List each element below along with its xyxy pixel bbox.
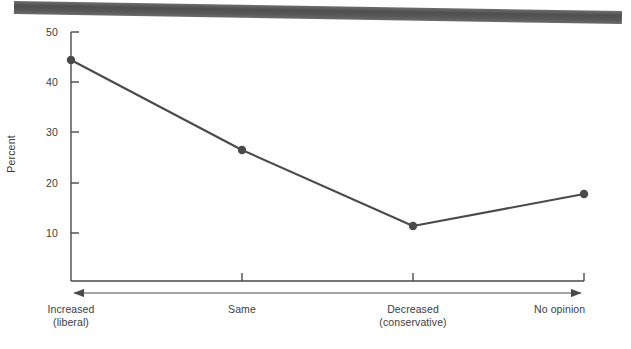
- x-category-label-decreased-line1: Decreased: [348, 303, 478, 316]
- data-point-decreased[interactable]: [409, 222, 417, 230]
- x-category-label-same-line1: Same: [192, 303, 292, 316]
- x-category-label-decreased: Decreased (conservative): [348, 303, 478, 328]
- data-point-same[interactable]: [238, 146, 246, 154]
- x-category-label-increased: Increased (liberal): [21, 303, 121, 328]
- x-category-label-no-opinion: No opinion: [534, 303, 631, 316]
- data-point-no-opinion[interactable]: [580, 190, 588, 198]
- data-point-increased[interactable]: [67, 56, 75, 64]
- data-line-percent: [71, 60, 584, 226]
- x-category-label-increased-line1: Increased: [21, 303, 121, 316]
- x-category-label-no-opinion-line1: No opinion: [534, 303, 631, 316]
- x-category-label-decreased-line2: (conservative): [348, 316, 478, 329]
- x-category-label-same: Same: [192, 303, 292, 316]
- plot-area: [0, 0, 631, 349]
- x-category-label-increased-line2: (liberal): [21, 316, 121, 329]
- chart-figure: 50 40 30 20 10 Percent: [0, 0, 631, 349]
